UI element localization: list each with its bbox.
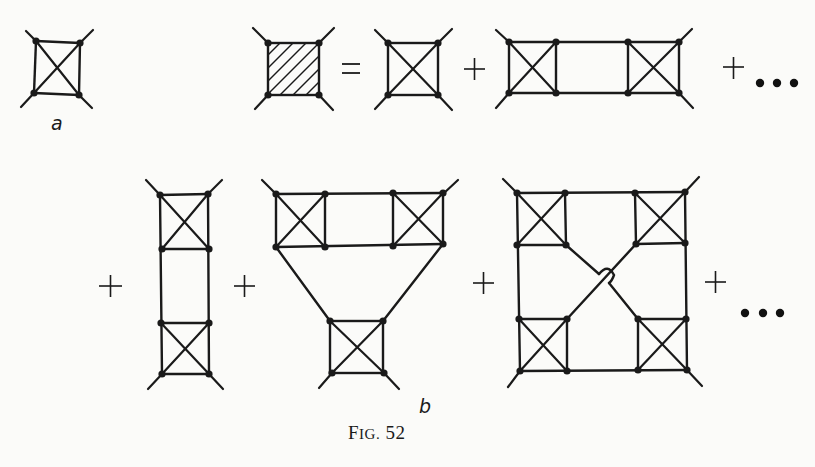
- plus-sign: [723, 57, 744, 79]
- panel-label-b: b: [419, 395, 431, 417]
- ellipsis-top: [756, 79, 798, 87]
- term-vertical-ladder: [146, 180, 223, 389]
- plus-sign: [464, 58, 485, 80]
- panel-label-a: a: [51, 112, 63, 134]
- plus-sign: [234, 275, 255, 297]
- ellipsis-bottom: [741, 309, 784, 317]
- term-triangle-three-boxes: [262, 180, 458, 389]
- diagram-a-crossed-square: [21, 30, 93, 108]
- caption-prefix: F: [348, 422, 359, 443]
- caption-smallcaps: IG.: [359, 426, 380, 442]
- hatched-full-vertex: [253, 28, 334, 110]
- term-four-boxes-crossed: [503, 177, 702, 387]
- term-single-crossed-square: [375, 29, 452, 110]
- caption-number: 52: [385, 422, 405, 443]
- plus-sign: [99, 275, 122, 297]
- plus-sign: [705, 271, 726, 293]
- figure-caption: FIG. 52: [348, 422, 405, 444]
- plus-sign: [473, 272, 494, 294]
- equals-sign: [342, 64, 360, 73]
- feynman-diagram-figure: [0, 0, 815, 467]
- term-horizontal-ladder: [496, 29, 693, 108]
